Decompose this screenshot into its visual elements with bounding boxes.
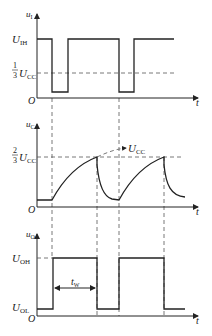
t-axis-label: t [196, 97, 199, 108]
input-waveform [37, 39, 174, 92]
y-axis-label: uI [26, 9, 33, 20]
level-label-uol: UOL [12, 301, 29, 315]
origin-label: O [28, 95, 35, 106]
t-axis-label: t [196, 206, 199, 217]
panel-capacitor: UCC uC 2 3 UCC O t [12, 119, 199, 217]
panel-output: tW uO UOH UOL O t [12, 229, 199, 326]
level-label-ucc: UCC [19, 151, 37, 165]
capacitor-waveform [37, 157, 185, 200]
output-waveform [37, 258, 185, 309]
asymptote-dash [97, 148, 126, 157]
frac-num: 2 [13, 146, 17, 155]
frac-den: 3 [13, 71, 17, 80]
level-label-uoh: UOH [12, 252, 30, 266]
y-axis-label: uC [26, 119, 35, 130]
timing-diagram: uI UIH 1 3 UCC O t UCC uC 2 3 UCC O t [0, 0, 212, 336]
asymptote-label: UCC [128, 142, 146, 156]
t-axis-label: t [196, 315, 199, 326]
tw-label: tW [71, 276, 80, 288]
panel-input: uI UIH 1 3 UCC O t [12, 9, 199, 108]
origin-label: O [28, 204, 35, 215]
frac-den: 3 [13, 156, 17, 165]
frac-num: 1 [13, 61, 17, 70]
y-axis-label: uO [26, 229, 36, 240]
level-label-uih: UIH [12, 33, 27, 47]
origin-label: O [28, 313, 35, 324]
level-label-ucc: UCC [19, 67, 37, 81]
